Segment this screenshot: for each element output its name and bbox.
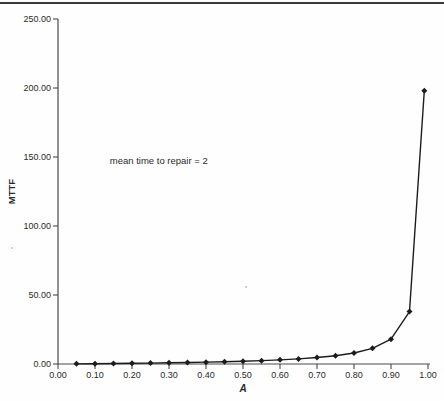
data-point-marker	[240, 358, 246, 364]
data-point-marker	[129, 360, 135, 366]
y-tick-label: 200.00	[23, 83, 51, 93]
x-tick-label: 0.90	[382, 370, 400, 380]
chart-annotation: mean time to repair = 2	[110, 155, 208, 166]
data-point-marker	[111, 361, 117, 367]
data-point-marker	[259, 358, 265, 364]
scan-speck	[11, 247, 13, 249]
data-point-marker	[314, 355, 320, 361]
x-tick-label: 0.60	[271, 370, 289, 380]
x-tick-label: 0.70	[308, 370, 326, 380]
x-axis-title: A	[238, 383, 246, 394]
y-tick-label: 250.00	[23, 14, 51, 24]
series-line	[77, 91, 425, 364]
y-tick-label: 150.00	[23, 152, 51, 162]
x-tick-label: 0.50	[234, 370, 252, 380]
data-point-marker	[185, 360, 191, 366]
data-point-marker	[296, 356, 302, 362]
data-point-marker	[370, 345, 376, 351]
x-tick-label: 0.40	[197, 370, 215, 380]
scanned-page: 0.0050.00100.00150.00200.00250.000.000.1…	[0, 0, 444, 401]
data-point-marker	[148, 360, 154, 366]
data-point-marker	[74, 361, 80, 367]
mttf-vs-availability-chart: 0.0050.00100.00150.00200.00250.000.000.1…	[0, 0, 444, 401]
x-tick-label: 0.30	[160, 370, 178, 380]
data-point-marker	[351, 350, 357, 356]
x-tick-label: 0.10	[86, 370, 104, 380]
y-axis-title: MTTF	[6, 179, 17, 205]
y-tick-label: 0.00	[33, 359, 51, 369]
data-point-marker	[333, 353, 339, 359]
x-tick-label: 1.00	[419, 370, 437, 380]
data-point-marker	[92, 361, 98, 367]
y-tick-label: 100.00	[23, 221, 51, 231]
x-tick-label: 0.00	[49, 370, 67, 380]
data-point-marker	[277, 357, 283, 363]
data-point-marker	[421, 88, 427, 94]
x-tick-label: 0.20	[123, 370, 141, 380]
data-point-marker	[166, 360, 172, 366]
x-tick-label: 0.80	[345, 370, 363, 380]
scan-speck	[245, 286, 247, 288]
y-tick-label: 50.00	[28, 290, 51, 300]
